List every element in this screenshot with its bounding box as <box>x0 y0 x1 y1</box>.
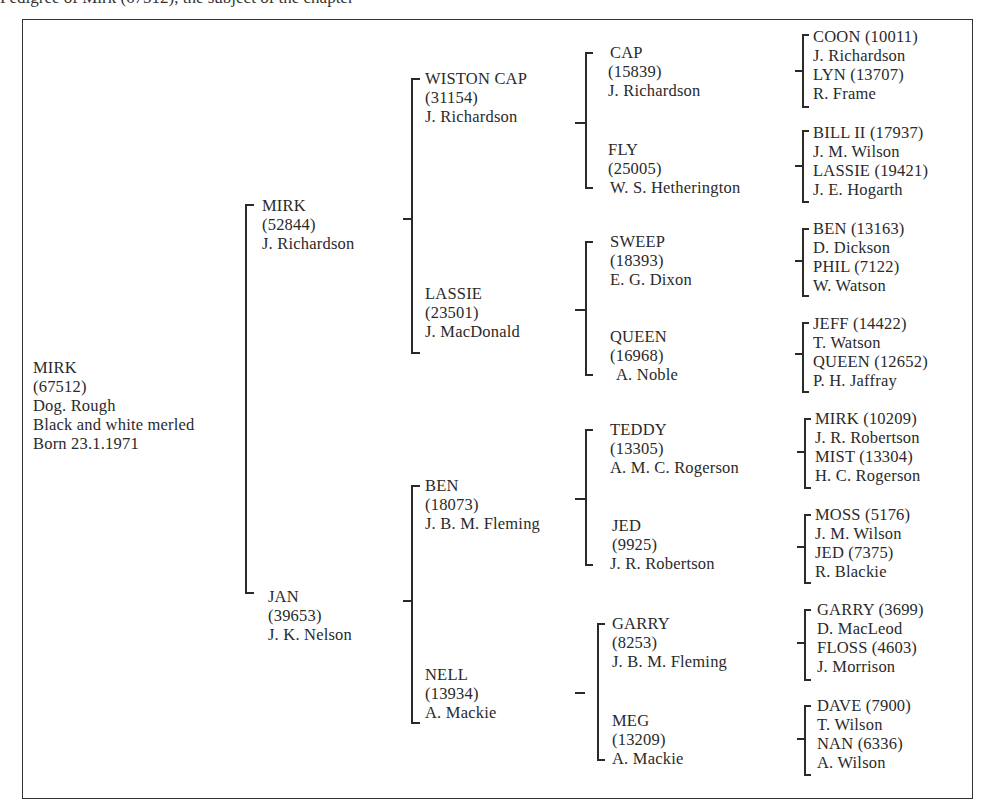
bracket-gggp-5 <box>804 418 806 488</box>
dog-breeder: J. K. Nelson <box>268 625 352 645</box>
bracket-tick <box>804 679 811 681</box>
dog-breeder: A. Mackie <box>425 703 496 723</box>
dog-name: SWEEP <box>610 232 665 252</box>
bracket-tick <box>797 546 804 548</box>
dog-breeder: A. Noble <box>616 365 678 385</box>
sire-name: BEN (13163) <box>813 219 905 239</box>
dog-reg: (16968) <box>610 346 664 366</box>
bracket-tick <box>411 722 420 724</box>
sire-name: BILL II (17937) <box>813 123 924 143</box>
cropped-caption: Pedigree of Mirk (67512), the subject of… <box>0 0 984 8</box>
bracket-tick <box>575 498 585 500</box>
subject-reg: (67512) <box>33 377 87 397</box>
dog-name: JED <box>612 516 641 536</box>
dog-name: BEN <box>425 476 459 496</box>
bracket-tick <box>804 705 811 707</box>
bracket-tick <box>804 774 811 776</box>
dog-breeder: J. Richardson <box>425 107 517 127</box>
bracket-tick <box>411 352 420 354</box>
dog-breeder: J. MacDonald <box>425 322 520 342</box>
dog-name: TEDDY <box>610 420 667 440</box>
bracket-tick <box>795 70 802 72</box>
sire-name: JEFF (14422) <box>813 314 907 334</box>
bracket-tick <box>585 52 593 54</box>
bracket-gggp-4 <box>802 322 804 392</box>
sire-breeder: J. R. Robertson <box>815 428 920 448</box>
dog-reg: (13934) <box>425 684 479 704</box>
dam-breeder: R. Frame <box>813 84 876 104</box>
dog-breeder: J. Richardson <box>608 81 700 101</box>
bracket-tick <box>802 34 809 36</box>
bracket-tick <box>795 260 802 262</box>
dam-breeder: A. Wilson <box>817 753 886 773</box>
sire-name: DAVE (7900) <box>817 696 911 716</box>
dog-reg: (18393) <box>610 251 664 271</box>
bracket-tick <box>597 623 605 625</box>
bracket-gggp-7 <box>804 609 806 680</box>
dam-breeder: H. C. Rogerson <box>815 466 920 486</box>
bracket-tick <box>245 592 254 594</box>
bracket-gggp-2 <box>802 130 804 202</box>
bracket-tick <box>403 600 411 602</box>
dam-breeder: W. Watson <box>813 276 886 296</box>
dog-breeder: J. B. M. Fleming <box>612 652 727 672</box>
dam-breeder: R. Blackie <box>815 562 887 582</box>
dog-breeder: A. M. C. Rogerson <box>610 458 739 478</box>
sire-name: GARRY (3699) <box>817 600 924 620</box>
dog-reg: (18073) <box>425 495 479 515</box>
bracket-tick <box>802 201 809 203</box>
dog-reg: (9925) <box>612 535 657 555</box>
bracket-grandparents-dam <box>411 485 413 723</box>
bracket-tick <box>411 485 420 487</box>
bracket-tick <box>802 130 809 132</box>
dog-reg: (15839) <box>608 62 662 82</box>
dog-name: MIRK <box>262 196 306 216</box>
sire-name: MIRK (10209) <box>815 409 917 429</box>
bracket-tick <box>797 642 804 644</box>
bracket-tick <box>575 309 585 311</box>
sire-name: MOSS (5176) <box>815 505 910 525</box>
bracket-tick <box>575 122 585 124</box>
dog-breeder: J. Richardson <box>262 234 354 254</box>
dog-reg: (52844) <box>262 215 316 235</box>
dog-reg: (39653) <box>268 606 322 626</box>
dam-name: MIST (13304) <box>815 447 913 467</box>
dog-reg: (8253) <box>612 633 657 653</box>
bracket-grandparents-sire <box>411 78 413 353</box>
bracket-gggp-1 <box>802 34 804 107</box>
sire-name: COON (10011) <box>813 27 918 47</box>
dam-name: PHIL (7122) <box>813 257 899 277</box>
bracket-ggp-1 <box>585 52 587 188</box>
dog-name: LASSIE <box>425 284 482 304</box>
bracket-tick <box>804 487 811 489</box>
dam-breeder: J. Morrison <box>817 657 895 677</box>
sire-breeder: T. Watson <box>813 333 881 353</box>
bracket-tick <box>585 187 593 189</box>
dog-reg: (13305) <box>610 439 664 459</box>
bracket-tick <box>797 451 804 453</box>
dog-breeder: E. G. Dixon <box>610 270 692 290</box>
bracket-tick <box>802 295 809 297</box>
dog-reg: (25005) <box>608 159 662 179</box>
dam-name: QUEEN (12652) <box>813 352 928 372</box>
dog-reg: (31154) <box>425 88 478 108</box>
dam-breeder: P. H. Jaffray <box>813 371 897 391</box>
dam-name: JED (7375) <box>815 543 894 563</box>
bracket-tick <box>585 564 593 566</box>
bracket-tick <box>585 429 593 431</box>
dog-reg: (23501) <box>425 303 479 323</box>
bracket-gggp-3 <box>802 228 804 296</box>
bracket-tick <box>795 165 802 167</box>
bracket-tick <box>795 353 802 355</box>
dam-name: LYN (13707) <box>813 65 904 85</box>
bracket-tick <box>804 514 811 516</box>
bracket-gggp-8 <box>804 705 806 775</box>
dog-name: GARRY <box>612 614 670 634</box>
sire-breeder: D. Dickson <box>813 238 890 258</box>
bracket-tick <box>585 374 593 376</box>
bracket-tick <box>575 692 585 694</box>
dog-name: QUEEN <box>610 327 667 347</box>
bracket-parents <box>245 204 247 593</box>
bracket-tick <box>802 106 809 108</box>
dam-name: FLOSS (4603) <box>817 638 917 658</box>
